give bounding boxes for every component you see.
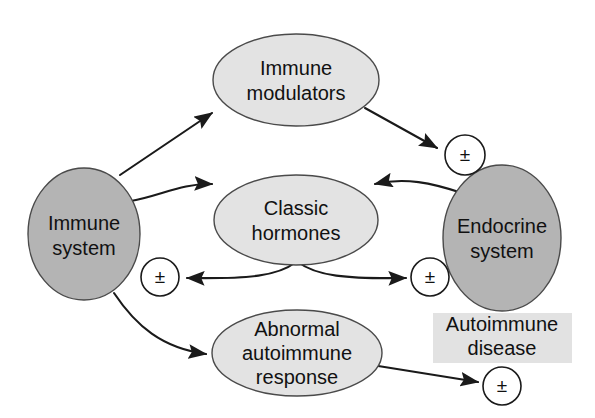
classic-hormones-label-line1: Classic [264,197,328,219]
immune-system-label-line1: Immune [48,212,120,234]
classic-hormones-ellipse[interactable] [214,175,378,265]
immune-system-label-line2: system [52,237,115,259]
sign-marker-bottom-right[interactable]: ± [483,367,521,405]
sign-marker-right-middle[interactable]: ± [411,258,449,296]
autoimmune-disease-label-line2: disease [468,337,537,359]
endocrine-system-label-line2: system [470,240,533,262]
node-endocrine-system[interactable]: Endocrine system [443,165,561,311]
abnormal-autoimmune-response-label-line1: Abnormal [254,318,340,340]
edge-endocrine-system-to-classic-hormones [375,181,462,193]
edge-immune-system-to-immune-modulators [120,113,212,175]
node-immune-modulators[interactable]: Immune modulators [213,34,379,126]
node-immune-system[interactable]: Immune system [28,168,140,300]
immune-modulators-ellipse[interactable] [213,34,379,126]
abnormal-autoimmune-response-label-line2: autoimmune [242,342,352,364]
node-abnormal-autoimmune-response[interactable]: Abnormal autoimmune response [212,310,382,396]
sign-marker-top-right[interactable]: ± [445,135,485,175]
diagram-svg: Immune system Immune modulators Classic … [0,0,595,418]
immune-modulators-label-line2: modulators [247,82,346,104]
sign-label-top-right: ± [460,144,470,165]
sign-label-bottom-right: ± [497,375,507,396]
immune-modulators-label-line1: Immune [260,57,332,79]
sign-marker-left-middle[interactable]: ± [141,258,179,296]
classic-hormones-label-line2: hormones [252,222,341,244]
edge-abnormal-autoimmune-response-to-sign-bottom-right [372,365,478,382]
sign-label-left-middle: ± [155,266,165,287]
endocrine-system-label-line1: Endocrine [457,215,547,237]
endocrine-system-ellipse[interactable] [443,165,561,311]
autoimmune-disease-label-line1: Autoimmune [446,313,558,335]
node-autoimmune-disease[interactable]: Autoimmune disease [433,313,572,363]
edge-immune-system-to-classic-hormones [131,184,212,201]
edge-immune-system-to-abnormal-autoimmune-response [114,293,206,354]
sign-label-right-middle: ± [425,266,435,287]
abnormal-autoimmune-response-label-line3: response [256,366,338,388]
edge-immune-modulators-to-sign-top-right [365,108,437,148]
node-classic-hormones[interactable]: Classic hormones [214,175,378,265]
diagram-canvas: Immune system Immune modulators Classic … [0,0,595,418]
